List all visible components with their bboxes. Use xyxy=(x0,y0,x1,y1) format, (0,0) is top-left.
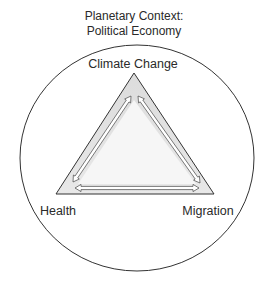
title-line-1: Planetary Context: xyxy=(85,9,184,23)
planetary-context-diagram: Planetary Context: Political Economy Cli… xyxy=(0,0,267,285)
label-migration: Migration xyxy=(182,204,233,218)
title-line-2: Political Economy xyxy=(87,24,182,38)
label-health: Health xyxy=(40,204,76,218)
label-climate-change: Climate Change xyxy=(88,57,178,71)
